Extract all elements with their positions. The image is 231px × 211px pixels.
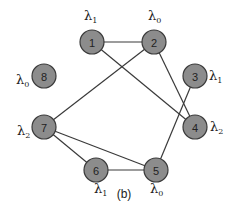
caption: (b) (117, 187, 132, 201)
node-1: 1λ1 (80, 8, 104, 54)
node-label: 5 (153, 165, 159, 177)
graph-diagram: 1λ12λ03λ14λ25λ06λ17λ28λ0 (b) (0, 0, 231, 211)
node-6: 6λ1 (84, 158, 108, 198)
lambda-label: λ2 (17, 123, 30, 140)
node-3: 3λ1 (183, 64, 222, 88)
node-2: 2λ0 (142, 8, 166, 54)
lambda-label: λ1 (209, 68, 222, 85)
node-8: 8λ0 (16, 64, 56, 89)
node-7: 7λ2 (17, 115, 56, 140)
node-label: 1 (89, 37, 95, 49)
node-4: 4λ2 (183, 115, 223, 139)
lambda-label: λ1 (94, 181, 107, 198)
lambda-label: λ2 (210, 119, 223, 136)
lambda-label: λ1 (84, 8, 97, 25)
lambda-label: λ0 (150, 181, 163, 198)
node-label: 6 (93, 165, 99, 177)
lambda-label: λ0 (148, 8, 161, 25)
node-label: 3 (192, 71, 198, 83)
node-5: 5λ0 (144, 158, 168, 198)
edge-2-7 (44, 42, 154, 127)
lambda-label: λ0 (16, 72, 29, 89)
node-label: 2 (151, 37, 157, 49)
node-label: 8 (41, 71, 47, 83)
edges (44, 42, 195, 170)
node-label: 4 (192, 122, 198, 134)
node-label: 7 (41, 122, 47, 134)
